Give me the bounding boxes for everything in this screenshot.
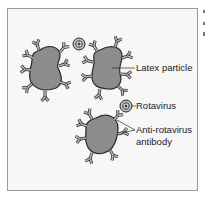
latex-particle-1 xyxy=(21,39,71,101)
antibody-label-line1: Anti-rotavirus xyxy=(136,125,192,135)
edge-mark xyxy=(203,32,205,36)
edge-mark xyxy=(203,22,205,25)
edge-mark xyxy=(203,10,205,13)
latex-particle-label: Latex particle xyxy=(136,63,193,73)
rotavirus-label: Rotavirus xyxy=(136,101,176,111)
rotavirus-2 xyxy=(120,100,132,112)
antibody-label-line2: antibody xyxy=(136,137,172,147)
latex-particle-3 xyxy=(76,109,129,164)
agglutination-illustration xyxy=(0,0,209,199)
rotavirus-1 xyxy=(73,38,85,50)
